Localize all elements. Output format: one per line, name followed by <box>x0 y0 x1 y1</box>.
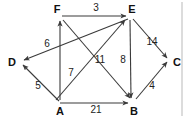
edge-label-F-E: 3 <box>93 2 99 13</box>
edge-label-A-D: 5 <box>35 80 41 91</box>
edge-label-E-B: 8 <box>120 54 126 65</box>
edge-E-B <box>130 20 131 98</box>
edge-labels-group: 3 6 7 11 8 14 4 21 5 <box>35 2 158 115</box>
edge-label-E-D: 6 <box>44 38 50 49</box>
edge-label-E-C: 14 <box>146 36 158 47</box>
edge-label-B-C: 4 <box>149 80 155 91</box>
edge-label-F-B: 11 <box>95 54 106 65</box>
edge-label-A-B: 21 <box>90 104 102 115</box>
node-C: C <box>173 56 181 68</box>
node-F: F <box>54 3 61 15</box>
node-E: E <box>128 3 135 15</box>
node-B: B <box>130 105 138 117</box>
edge-label-A-F: 7 <box>68 67 74 78</box>
node-A: A <box>56 105 64 117</box>
edge-A-E <box>56 20 125 100</box>
edge-E-D <box>24 19 128 60</box>
edge-A-D <box>23 65 59 101</box>
graph-diagram: 3 6 7 11 8 14 4 21 5 F E D C A B <box>0 0 190 118</box>
graph-canvas: 3 6 7 11 8 14 4 21 5 F E D C A B <box>0 0 190 118</box>
node-D: D <box>8 56 16 68</box>
